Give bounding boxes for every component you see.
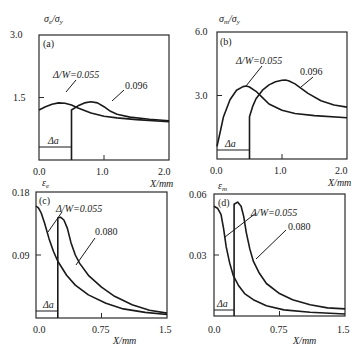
panel-b: 6.0 3.0 0.0 1.0 2.0 X/mm (b) σm/σy Δ/W=0… (195, 13, 351, 188)
panel-tag: (b) (220, 36, 232, 48)
y-axis-label: εm (218, 180, 227, 193)
series-label-1: Δ/W=0.055 (55, 203, 102, 214)
series-label-2: 0.096 (300, 66, 323, 77)
panel-a: 3.0 1.5 0.0 1.0 2.0 X/mm (a) σe/σy Δ/W=0… (10, 13, 173, 189)
series-label-1: Δ/W=0.055 (52, 69, 99, 80)
series-label-2: 0.080 (288, 221, 311, 232)
y-axis-label: εe (42, 177, 49, 190)
leader-line (112, 90, 124, 101)
curve-series-2 (250, 80, 348, 159)
leader-line (301, 77, 313, 87)
delta-a-label: Δa (47, 135, 59, 146)
y-tick-label: 3.0 (10, 29, 23, 40)
y-tick-label: 0.18 (12, 187, 30, 198)
panel-tag: (c) (39, 195, 50, 207)
delta-a-label: Δa (216, 298, 228, 309)
series-label-1: Δ/W=0.055 (250, 207, 297, 218)
y-tick-label: 0.03 (189, 250, 207, 261)
x-tick-label: 2.0 (158, 166, 171, 177)
series-label-1: Δ/W=0.055 (235, 55, 282, 66)
curve-series-1 (217, 86, 347, 146)
leader-line (48, 212, 62, 232)
delta-a-label: Δa (224, 138, 236, 149)
x-axis-label: X/mm (327, 177, 351, 188)
leader-line (256, 230, 286, 259)
x-tick-label: 0.75 (270, 324, 288, 335)
x-tick-label: 0.0 (33, 324, 46, 335)
x-tick-label: 0.0 (210, 165, 223, 176)
series-label-2: 0.080 (95, 226, 118, 237)
panel-d: 0.06 0.03 0.0 0.75 1.5 X/mm (d) εm Δ/W=0… (189, 180, 350, 346)
y-tick-label: 0.06 (189, 189, 207, 200)
leader-line (76, 238, 95, 265)
x-tick-label: 0.75 (92, 324, 110, 335)
x-tick-label: 1.5 (337, 324, 350, 335)
panel-c: 0.18 0.09 0.0 0.75 1.5 X/mm (c) εe Δ/W=0… (12, 177, 172, 346)
delta-a-label: Δa (42, 299, 54, 310)
x-axis-label: X/mm (149, 178, 173, 189)
x-tick-label: 1.5 (159, 324, 172, 335)
x-tick-label: 1.0 (96, 166, 109, 177)
y-axis-label: σm/σy (219, 13, 241, 26)
leader-line (246, 66, 262, 86)
x-tick-label: 0.0 (33, 166, 46, 177)
y-axis-label: σe/σy (44, 13, 64, 26)
curve-series-2 (234, 202, 345, 316)
x-axis-label: X/mm (292, 335, 316, 346)
plot-frame (217, 32, 347, 159)
x-tick-label: 0.0 (208, 324, 221, 335)
y-tick-label: 6.0 (195, 26, 208, 37)
series-label-2: 0.096 (125, 80, 148, 91)
panel-tag: (d) (218, 197, 230, 209)
y-tick-label: 1.5 (13, 92, 26, 103)
y-tick-label: 3.0 (195, 90, 208, 101)
y-tick-label: 0.09 (12, 250, 30, 261)
x-tick-label: 2.0 (335, 165, 348, 176)
panel-tag: (a) (43, 38, 54, 50)
curve-series-1 (36, 206, 167, 315)
figure-canvas: 3.0 1.5 0.0 1.0 2.0 X/mm (a) σe/σy Δ/W=0… (0, 0, 362, 360)
x-tick-label: 1.0 (274, 165, 287, 176)
leader-line (66, 80, 76, 92)
x-axis-label: X/mm (112, 335, 136, 346)
